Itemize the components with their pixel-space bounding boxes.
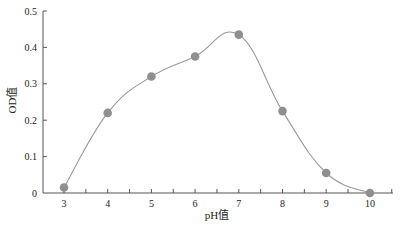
x-tick-label: 10 — [365, 198, 375, 209]
data-markers — [60, 30, 375, 197]
data-point-marker — [60, 183, 69, 192]
y-tick-label: 0.2 — [25, 115, 38, 126]
x-tick-label: 7 — [236, 198, 241, 209]
x-tick-label: 5 — [149, 198, 154, 209]
x-tick-label: 9 — [324, 198, 329, 209]
data-point-marker — [278, 107, 287, 116]
x-tick-label: 4 — [105, 198, 110, 209]
y-axis-title: OD值 — [6, 87, 18, 114]
x-tick-label: 6 — [193, 198, 198, 209]
data-point-marker — [235, 30, 244, 39]
y-axis: 00.10.20.30.40.5 — [25, 6, 48, 199]
x-axis: 345678910 — [43, 189, 393, 209]
y-tick-label: 0.5 — [25, 6, 38, 17]
y-tick-label: 0.4 — [25, 42, 38, 53]
x-tick-label: 8 — [280, 198, 285, 209]
data-point-marker — [322, 169, 331, 178]
data-point-marker — [366, 189, 375, 198]
x-tick-label: 3 — [62, 198, 67, 209]
data-point-marker — [147, 72, 156, 81]
line-chart: 00.10.20.30.40.5 345678910 pH值 OD值 — [0, 0, 400, 231]
data-point-marker — [191, 52, 200, 61]
x-axis-title: pH值 — [205, 209, 229, 221]
y-tick-label: 0.1 — [25, 151, 38, 162]
y-tick-label: 0 — [32, 188, 37, 199]
y-tick-label: 0.3 — [25, 78, 38, 89]
data-point-marker — [103, 109, 112, 118]
